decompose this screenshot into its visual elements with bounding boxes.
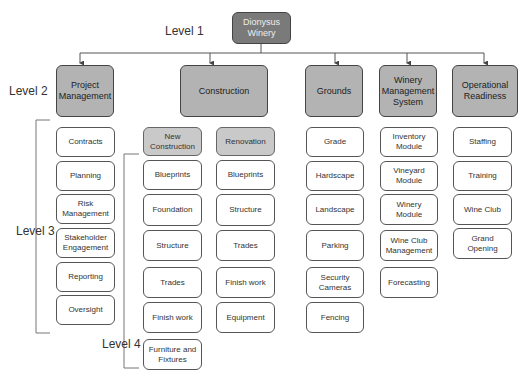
- node-wine-club[interactable]: Wine Club: [453, 194, 512, 225]
- node-nc-structure[interactable]: Structure: [143, 230, 202, 261]
- node-wine-club-management[interactable]: Wine Club Management: [380, 230, 438, 261]
- node-new-construction[interactable]: New Construction: [143, 127, 202, 156]
- level-1-label: Level 1: [165, 24, 204, 38]
- node-fencing[interactable]: Fencing: [306, 302, 364, 333]
- node-ren-trades[interactable]: Trades: [216, 230, 275, 261]
- level-3-label: Level 3: [16, 224, 55, 238]
- node-staffing[interactable]: Staffing: [453, 127, 512, 157]
- node-winery-module[interactable]: Winery Module: [380, 194, 438, 225]
- node-security-cameras[interactable]: Security Cameras: [306, 267, 364, 298]
- node-ren-finish-work[interactable]: Finish work: [216, 267, 275, 298]
- node-ren-structure[interactable]: Structure: [216, 194, 275, 226]
- node-ren-blueprints[interactable]: Blueprints: [216, 160, 275, 190]
- node-winery-management-system[interactable]: Winery Management System: [379, 65, 437, 117]
- node-nc-furniture-fixtures[interactable]: Furniture and Fixtures: [143, 339, 202, 370]
- root-node[interactable]: Dionysus Winery: [232, 12, 291, 44]
- node-inventory-module[interactable]: Inventory Module: [380, 127, 438, 157]
- node-operational-readiness[interactable]: Operational Readiness: [452, 65, 518, 117]
- node-nc-blueprints[interactable]: Blueprints: [143, 160, 202, 190]
- node-renovation[interactable]: Renovation: [216, 127, 275, 156]
- level4-bracket: [124, 154, 139, 368]
- node-nc-foundation[interactable]: Foundation: [143, 194, 202, 226]
- node-grade[interactable]: Grade: [306, 127, 364, 157]
- node-project-management[interactable]: Project Management: [56, 65, 114, 117]
- node-ren-equipment[interactable]: Equipment: [216, 302, 275, 333]
- node-planning[interactable]: Planning: [56, 161, 115, 191]
- node-forecasting[interactable]: Forecasting: [380, 267, 438, 298]
- node-grounds[interactable]: Grounds: [305, 65, 363, 117]
- level-2-label: Level 2: [9, 84, 48, 98]
- node-landscape[interactable]: Landscape: [306, 194, 364, 225]
- node-oversight[interactable]: Oversight: [56, 295, 115, 325]
- level-4-label: Level 4: [102, 337, 141, 351]
- node-vineyard-module[interactable]: Vineyard Module: [380, 161, 438, 191]
- node-nc-trades[interactable]: Trades: [143, 267, 202, 298]
- node-construction[interactable]: Construction: [180, 65, 268, 117]
- node-hardscape[interactable]: Hardscape: [306, 161, 364, 191]
- node-grand-opening[interactable]: Grand Opening: [453, 228, 512, 259]
- node-training[interactable]: Training: [453, 161, 512, 191]
- node-risk-management[interactable]: Risk Management: [56, 194, 115, 224]
- node-nc-finish-work[interactable]: Finish work: [143, 302, 202, 333]
- node-contracts[interactable]: Contracts: [56, 127, 115, 157]
- node-parking[interactable]: Parking: [306, 230, 364, 261]
- node-stakeholder-engagement[interactable]: Stakeholder Engagement: [56, 228, 115, 258]
- node-reporting[interactable]: Reporting: [56, 262, 115, 292]
